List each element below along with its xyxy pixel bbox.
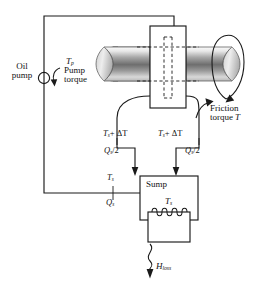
right-drain-flow-label: Qs/2 xyxy=(185,146,200,156)
drain-label-ticks xyxy=(117,138,199,145)
sump-inlet-flow-label: Qs xyxy=(106,198,114,208)
heat-loss-arrowhead xyxy=(147,269,154,279)
sump-inlet-temperature-label: Ts xyxy=(107,173,114,183)
sump-temperature-label: Ts xyxy=(165,197,172,207)
pump-torque-label-line2: torque xyxy=(64,74,87,84)
drain-arrowheads xyxy=(132,167,180,176)
sump-inlet-flow-sub: s xyxy=(112,201,114,207)
bearing-housing xyxy=(150,26,186,108)
pump-torque-arrowhead xyxy=(51,79,58,86)
oil-pump-label: Oil pump xyxy=(6,62,38,81)
heat-loss-wavy-arrow xyxy=(148,244,152,272)
left-drain-flow-label: Qs/2 xyxy=(104,146,119,156)
left-drain-temperature-label: Ts+ ΔT xyxy=(103,129,127,139)
friction-torque-symbol: T xyxy=(235,112,240,122)
left-drain-flow-div: /2 xyxy=(112,145,119,155)
pump-torque-label: Pump torque xyxy=(64,66,87,85)
friction-torque-label-line2: torque xyxy=(210,112,233,122)
friction-torque-label: Friction torqueT xyxy=(210,104,240,123)
sump-title-label: Sump xyxy=(146,180,167,189)
left-drain-delta: + ΔT xyxy=(110,128,128,138)
sump-inlet-temp-sub: s xyxy=(112,176,114,182)
diagram-vector-layer xyxy=(0,0,260,284)
right-drain-temperature-label: Ts+ ΔT xyxy=(158,129,182,139)
oil-pump-label-line2: pump xyxy=(12,70,33,80)
right-drain-flow-div: /2 xyxy=(193,145,200,155)
heat-loss-label: Hloss xyxy=(156,262,171,272)
right-drain-delta: + ΔT xyxy=(165,128,183,138)
sump-temp-sub: s xyxy=(170,200,172,206)
oil-pump-symbol xyxy=(38,72,49,83)
bearing-lubrication-diagram: Oil pump Tp Pump torque Friction torqueT… xyxy=(0,0,260,284)
heat-loss-sub: loss xyxy=(163,265,172,271)
